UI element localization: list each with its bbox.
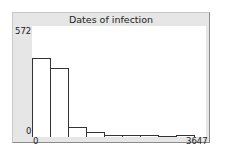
histogram-bar — [104, 135, 123, 137]
histogram-bar — [86, 132, 105, 137]
x-axis-min-label: 0 — [33, 137, 38, 146]
y-axis-min-label: 0 — [26, 127, 31, 136]
histogram-bar — [50, 68, 69, 137]
y-axis-max-label: 572 — [15, 27, 31, 36]
plot-area — [32, 26, 206, 137]
x-axis-max-label: 3647 — [186, 137, 208, 146]
histogram-bar — [140, 135, 159, 137]
chart-title: Dates of infection — [13, 14, 209, 25]
histogram-bar — [68, 127, 87, 137]
histogram-bars — [32, 26, 206, 137]
histogram-bar — [32, 58, 51, 137]
histogram-panel: Dates of infection 572 0 0 3647 — [12, 12, 210, 143]
histogram-bar — [158, 136, 177, 137]
histogram-bar — [122, 135, 141, 137]
